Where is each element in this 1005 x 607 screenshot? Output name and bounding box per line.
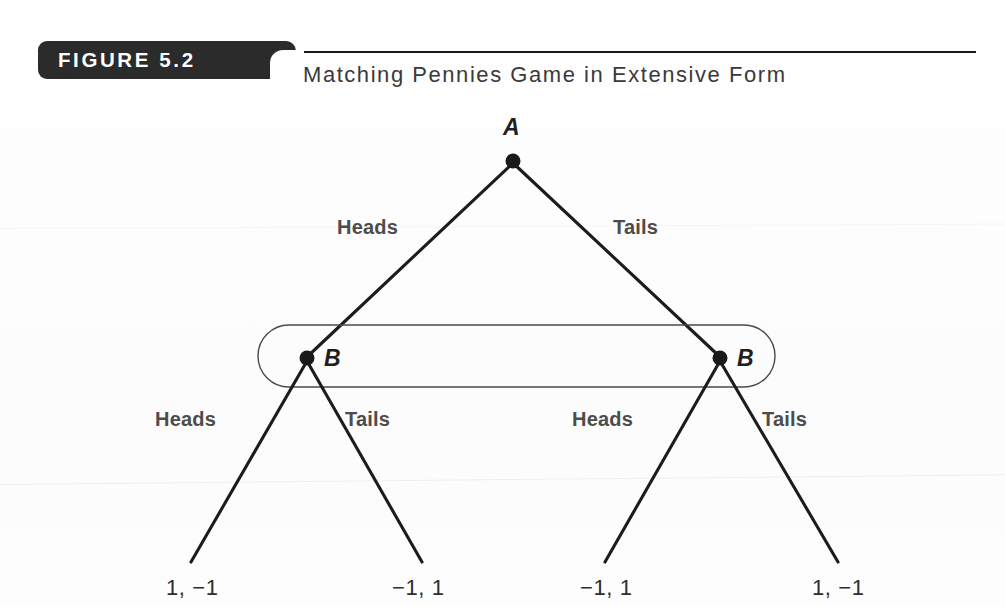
payoff-label-tt: 1, −1 (812, 575, 865, 601)
action-label-right-b-tails: Tails (762, 408, 807, 431)
figure-page: FIGURE 5.2 Matching Pennies Game in Exte… (0, 0, 1005, 607)
node-b-right-dot (713, 351, 728, 366)
payoff-label-th: −1, 1 (580, 575, 633, 601)
node-label-a: A (503, 114, 520, 141)
edge-right-b-heads (605, 361, 720, 562)
node-label-b-left: B (324, 345, 341, 372)
payoff-label-ht: −1, 1 (392, 575, 445, 601)
edge-left-b-heads (191, 361, 307, 562)
node-b-left-dot (300, 351, 315, 366)
payoff-label-hh: 1, −1 (166, 575, 219, 601)
game-tree-diagram (0, 0, 1005, 607)
edge-root-tails (513, 163, 719, 356)
action-label-left-b-tails: Tails (345, 408, 390, 431)
action-label-root-heads: Heads (337, 216, 398, 239)
action-label-left-b-heads: Heads (155, 408, 216, 431)
action-label-right-b-heads: Heads (572, 408, 633, 431)
figure-number-label: FIGURE 5.2 (58, 48, 196, 72)
action-label-root-tails: Tails (613, 216, 658, 239)
edge-right-b-tails (720, 361, 838, 562)
node-label-b-right: B (737, 345, 754, 372)
edge-root-heads (308, 163, 513, 356)
node-a-dot (506, 154, 521, 169)
edge-left-b-tails (307, 361, 422, 562)
